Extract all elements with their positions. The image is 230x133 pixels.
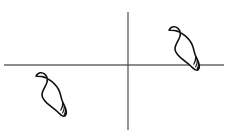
lower-left-footprint-outline [26, 71, 77, 118]
upper-right-footprint [159, 25, 210, 72]
figure-canvas [0, 0, 230, 133]
upper-right-footprint-outline [159, 25, 210, 72]
footprint-axis-diagram [0, 0, 230, 133]
lower-left-footprint [26, 71, 77, 118]
